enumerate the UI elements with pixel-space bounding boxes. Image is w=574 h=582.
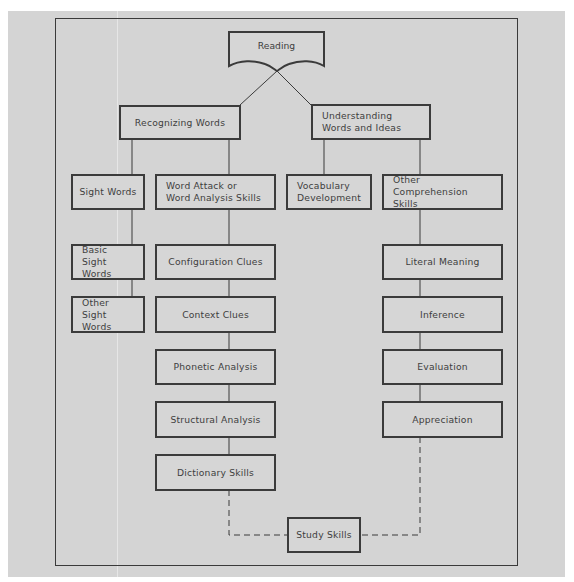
node-evaluation: Evaluation (382, 349, 503, 385)
node-structural-analysis: Structural Analysis (155, 401, 276, 438)
node-understanding-words: Understanding Words and Ideas (311, 104, 431, 140)
node-dictionary-skills: Dictionary Skills (155, 454, 276, 491)
node-phonetic-analysis: Phonetic Analysis (155, 349, 276, 385)
node-literal-meaning: Literal Meaning (382, 244, 503, 280)
node-label: Context Clues (182, 309, 249, 321)
node-label: Inference (420, 309, 465, 321)
node-label: Other Comprehension Skills (393, 174, 491, 210)
node-label: Basic Sight Words (82, 244, 129, 280)
node-appreciation: Appreciation (382, 401, 503, 438)
node-label: Phonetic Analysis (174, 361, 258, 373)
node-label: Understanding Words and Ideas (322, 110, 409, 134)
node-other-comprehension: Other Comprehension Skills (382, 174, 503, 210)
node-recognizing-words: Recognizing Words (119, 105, 241, 140)
edge-appreciation-study-dashed (360, 437, 420, 535)
node-study-skills: Study Skills (287, 517, 361, 553)
node-word-attack: Word Attack or Word Analysis Skills (155, 174, 276, 210)
node-label: Evaluation (417, 361, 467, 373)
connector-layer (0, 0, 574, 582)
node-vocabulary-development: Vocabulary Development (286, 174, 372, 210)
node-label: Other Sight Words (82, 297, 129, 333)
node-label: Word Attack or Word Analysis Skills (166, 180, 262, 204)
node-configuration-clues: Configuration Clues (155, 244, 276, 280)
edge-reading-understanding (277, 71, 311, 105)
node-inference: Inference (382, 296, 503, 333)
edge-dictionary-study-dashed (229, 490, 287, 535)
node-sight-words: Sight Words (71, 174, 145, 210)
node-label: Literal Meaning (405, 256, 479, 268)
node-label: Vocabulary Development (297, 180, 364, 204)
node-label: Sight Words (79, 186, 136, 198)
node-label: Recognizing Words (135, 117, 225, 129)
reading-node-shape (229, 32, 324, 71)
node-other-sight-words: Other Sight Words (71, 296, 145, 333)
node-label: Configuration Clues (168, 256, 262, 268)
node-label: Appreciation (412, 414, 472, 426)
edge-reading-recognizing (240, 71, 277, 105)
node-reading-label: Reading (229, 40, 324, 51)
node-label: Structural Analysis (170, 414, 260, 426)
node-basic-sight-words: Basic Sight Words (71, 244, 145, 280)
node-context-clues: Context Clues (155, 296, 276, 333)
node-label: Dictionary Skills (177, 467, 254, 479)
node-label: Study Skills (296, 529, 351, 541)
